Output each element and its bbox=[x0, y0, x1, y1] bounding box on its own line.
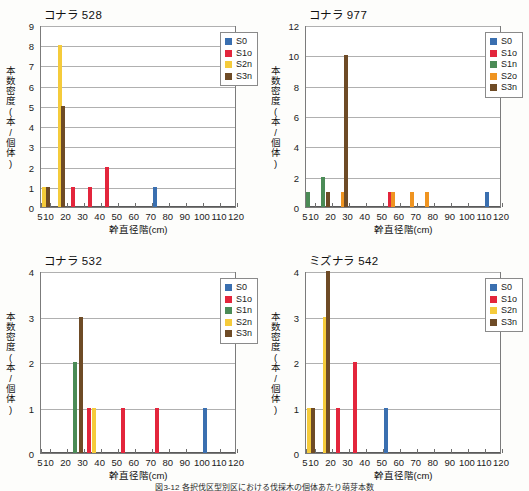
x-tick bbox=[315, 203, 316, 207]
x-tick-label: 5 bbox=[302, 457, 307, 468]
x-tick-label: 90 bbox=[445, 457, 456, 468]
legend-label: S1n bbox=[236, 305, 252, 317]
x-tick-label: 60 bbox=[128, 457, 139, 468]
x-tick-label: 50 bbox=[376, 457, 387, 468]
legend-item: S1o bbox=[225, 48, 252, 60]
x-tick bbox=[332, 203, 333, 207]
x-tick bbox=[169, 203, 170, 207]
gridline bbox=[306, 56, 500, 57]
plot-area bbox=[40, 26, 236, 208]
x-tick-label: 10 bbox=[308, 211, 319, 222]
x-tick-label: 110 bbox=[476, 457, 491, 468]
legend-label: S0 bbox=[236, 36, 247, 48]
legend-label: S3n bbox=[501, 317, 517, 329]
x-tick-label: 5 bbox=[37, 211, 42, 222]
x-tick bbox=[332, 449, 333, 453]
bar-S3n bbox=[311, 408, 315, 454]
y-axis-title: 本数密度(本/個体) bbox=[4, 26, 17, 208]
x-tick bbox=[84, 449, 85, 453]
x-tick-label: 50 bbox=[111, 457, 122, 468]
legend-swatch-S0 bbox=[490, 284, 497, 291]
x-tick bbox=[400, 449, 401, 453]
y-tick-label: 3 bbox=[0, 142, 34, 153]
x-tick bbox=[237, 203, 238, 207]
gridline bbox=[306, 272, 500, 273]
gridline bbox=[306, 26, 500, 27]
x-tick-label: 5 bbox=[302, 211, 307, 222]
x-tick-label: 10 bbox=[43, 457, 54, 468]
gridline bbox=[41, 26, 235, 27]
x-tick bbox=[118, 203, 119, 207]
bar-S1o bbox=[71, 187, 75, 207]
x-tick-label: 80 bbox=[428, 457, 439, 468]
x-tick-label: 30 bbox=[342, 457, 353, 468]
gridline bbox=[306, 178, 500, 179]
legend-swatch-S2n bbox=[225, 61, 232, 68]
y-tick-label: 1 bbox=[265, 403, 299, 414]
legend-item: S0 bbox=[490, 36, 517, 48]
x-tick-label: 110 bbox=[211, 211, 226, 222]
x-tick-label: 120 bbox=[493, 457, 509, 468]
legend-swatch-S1o bbox=[490, 296, 497, 303]
bar-S3n bbox=[326, 271, 330, 453]
legend-item: S0 bbox=[225, 36, 252, 48]
x-tick-labels: 5102030405060708090100110120 bbox=[40, 209, 236, 223]
x-tick-label: 110 bbox=[476, 211, 491, 222]
bar-S3n bbox=[79, 317, 83, 454]
x-tick bbox=[366, 449, 367, 453]
y-tick-label: 4 bbox=[265, 267, 299, 278]
x-tick-label: 40 bbox=[94, 457, 105, 468]
x-tick-label: 20 bbox=[60, 457, 71, 468]
x-tick-labels: 5102030405060708090100110120 bbox=[305, 455, 501, 469]
chart-title: コナラ 532 bbox=[44, 252, 102, 268]
plot-area bbox=[305, 26, 501, 208]
bar-S1n bbox=[306, 192, 310, 207]
x-tick bbox=[451, 449, 452, 453]
x-tick-label: 30 bbox=[77, 457, 88, 468]
chart-title: コナラ 528 bbox=[44, 6, 102, 22]
chart-legend: S0S1oS2nS3n bbox=[485, 278, 523, 332]
x-tick bbox=[169, 449, 170, 453]
x-tick-label: 80 bbox=[428, 211, 439, 222]
legend-swatch-S0 bbox=[490, 38, 497, 45]
x-tick-label: 60 bbox=[393, 457, 404, 468]
gridline bbox=[41, 318, 235, 319]
legend-item: S0 bbox=[490, 282, 517, 294]
x-tick bbox=[41, 449, 42, 453]
chart-legend: S0S1oS1nS2nS3n bbox=[220, 278, 258, 344]
y-tick-label: 2 bbox=[0, 162, 34, 173]
x-axis-line bbox=[306, 206, 500, 207]
x-tick-label: 20 bbox=[60, 211, 71, 222]
gridline bbox=[41, 87, 235, 88]
x-tick-label: 70 bbox=[145, 211, 156, 222]
x-axis-line bbox=[41, 206, 235, 207]
gridline bbox=[306, 87, 500, 88]
chart-panel-mizunara-542: ミズナラ 542本数密度(本/個体)幹直径階(cm)01234510203040… bbox=[265, 246, 529, 491]
x-tick bbox=[203, 203, 204, 207]
legend-swatch-S3n bbox=[490, 319, 497, 326]
x-tick-label: 100 bbox=[194, 457, 210, 468]
legend-label: S1o bbox=[501, 294, 517, 306]
x-tick bbox=[468, 203, 469, 207]
y-tick-label: 2 bbox=[0, 358, 34, 369]
x-tick-labels: 5102030405060708090100110120 bbox=[40, 455, 236, 469]
y-tick-label: 7 bbox=[0, 61, 34, 72]
x-tick bbox=[135, 203, 136, 207]
x-axis-line bbox=[306, 452, 500, 453]
legend-label: S0 bbox=[236, 282, 247, 294]
bar-S0 bbox=[203, 408, 207, 454]
gridline bbox=[306, 363, 500, 364]
x-tick-label: 60 bbox=[128, 211, 139, 222]
chart-title: コナラ 977 bbox=[309, 6, 367, 22]
x-tick bbox=[434, 449, 435, 453]
bar-S1o bbox=[105, 167, 109, 207]
x-tick-label: 30 bbox=[77, 211, 88, 222]
bar-S1o bbox=[336, 408, 340, 454]
gridline bbox=[41, 188, 235, 189]
x-tick bbox=[186, 449, 187, 453]
y-tick-label: 0 bbox=[265, 203, 299, 214]
legend-item: S0 bbox=[225, 282, 252, 294]
y-tick-label: 3 bbox=[265, 312, 299, 323]
bar-S3n bbox=[61, 106, 65, 207]
y-tick-label: 6 bbox=[0, 81, 34, 92]
